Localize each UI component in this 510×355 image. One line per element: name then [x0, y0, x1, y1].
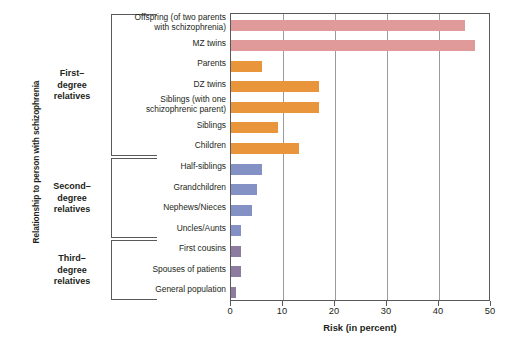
category-label: First cousins	[179, 244, 226, 254]
bar-row	[231, 96, 489, 118]
x-tick-label: 30	[366, 306, 406, 316]
bar-row	[231, 281, 489, 303]
bar	[231, 81, 319, 92]
category-label: Spouses of patients	[152, 265, 226, 275]
bar-row	[231, 240, 489, 262]
x-tick-label: 50	[470, 306, 510, 316]
group-bracket	[111, 14, 157, 156]
bar-row	[231, 35, 489, 57]
group-label-line: degree	[41, 265, 103, 277]
group-label: Third–degreerelatives	[41, 253, 103, 288]
category-label: Nephews/Nieces	[163, 203, 226, 213]
category-label: MZ twins	[193, 39, 227, 49]
bar	[231, 20, 465, 31]
group-bracket	[111, 158, 157, 238]
category-label: Parents	[197, 59, 226, 69]
bar	[231, 102, 319, 113]
bar	[231, 61, 262, 72]
bar	[231, 40, 475, 51]
group-label: Second–degreerelatives	[41, 181, 103, 216]
x-tick-label: 0	[210, 306, 250, 316]
bar	[231, 122, 278, 133]
category-label: Siblings	[197, 121, 226, 131]
bar-row	[231, 158, 489, 180]
bar-row	[231, 55, 489, 77]
category-label: Uncles/Aunts	[177, 224, 226, 234]
category-label: Grandchildren	[173, 183, 226, 193]
bar	[231, 287, 236, 298]
chart-figure: Relationship to person with schizophreni…	[0, 0, 510, 355]
category-label: General population	[155, 285, 226, 295]
bar	[231, 164, 262, 175]
category-label: Half-siblings	[180, 162, 226, 172]
x-tick-label: 20	[314, 306, 354, 316]
category-label: DZ twins	[193, 80, 226, 90]
bar-row	[231, 76, 489, 98]
y-axis-title: Relationship to person with schizophreni…	[31, 22, 41, 302]
group-label-line: relatives	[41, 91, 103, 103]
x-axis-title: Risk (in percent)	[230, 322, 490, 333]
group-label-line: First–	[41, 68, 103, 80]
group-label: First–degreerelatives	[41, 68, 103, 103]
bar-row	[231, 137, 489, 159]
bar-row	[231, 117, 489, 139]
group-bracket	[111, 240, 157, 300]
x-tick-label: 40	[418, 306, 458, 316]
bar-row	[231, 199, 489, 221]
group-label-line: Second–	[41, 181, 103, 193]
bar	[231, 184, 257, 195]
group-label-line: degree	[41, 193, 103, 205]
bar-row	[231, 14, 489, 36]
bar	[231, 266, 241, 277]
group-label-line: relatives	[41, 204, 103, 216]
group-label-line: relatives	[41, 276, 103, 288]
category-label: Children	[195, 141, 226, 151]
category-label: Offspring (of two parents with schizophr…	[134, 13, 226, 32]
x-tick-label: 10	[262, 306, 302, 316]
bar-row	[231, 261, 489, 283]
group-label-line: degree	[41, 80, 103, 92]
bar-row	[231, 179, 489, 201]
bar	[231, 246, 241, 257]
category-label: Siblings (with one schizophrenic parent)	[146, 95, 226, 114]
bar	[231, 225, 241, 236]
plot-area	[230, 13, 490, 301]
bar	[231, 143, 299, 154]
group-label-line: Third–	[41, 253, 103, 265]
bar	[231, 205, 252, 216]
bar-row	[231, 220, 489, 242]
